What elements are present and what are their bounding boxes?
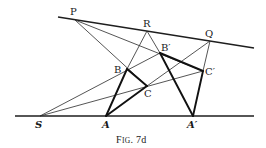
figure-7d-diagram: P R Q B B′ C C′ S A A′ FIG. 7d — [0, 0, 266, 148]
label-p: P — [70, 6, 77, 17]
caption-ig: IG — [122, 136, 131, 145]
line-r-b — [127, 31, 147, 69]
label-r: R — [143, 18, 151, 29]
side-a-prime-c-prime — [193, 71, 203, 116]
side-a-prime-b-prime — [160, 53, 193, 116]
line-s-b-b-prime — [40, 53, 160, 116]
caption-number: . 7d — [130, 134, 146, 145]
line-s-c-c-prime — [40, 71, 203, 116]
label-s: S — [35, 119, 42, 130]
label-c: C — [144, 88, 152, 99]
label-a-prime: A′ — [186, 119, 198, 130]
label-a: A — [101, 119, 110, 130]
side-b-prime-c-prime — [160, 53, 203, 71]
side-b-c — [127, 69, 147, 86]
figure-caption: FIG. 7d — [116, 134, 147, 145]
label-q: Q — [205, 28, 213, 39]
line-p-r-q — [58, 17, 254, 48]
triangle-a-prime-b-prime-c-prime — [160, 53, 203, 116]
label-c-prime: C′ — [205, 66, 216, 77]
label-b: B — [114, 64, 121, 75]
label-b-prime: B′ — [161, 42, 171, 53]
